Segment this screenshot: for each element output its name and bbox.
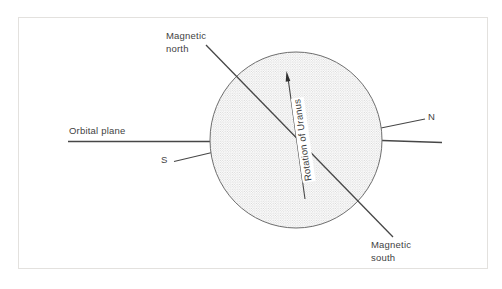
uranus-diagram <box>0 0 502 289</box>
north-pole-line <box>381 119 425 128</box>
magnetic-north-label: Magnetic north <box>166 30 216 55</box>
south-pole-line <box>174 153 212 162</box>
orbital-plane-line-right <box>382 141 442 143</box>
orbital-plane-label: Orbital plane <box>69 125 125 138</box>
figure-canvas: Magnetic north Orbital plane S N Rotatio… <box>0 0 502 289</box>
north-pole-label: N <box>428 111 435 124</box>
south-pole-label: S <box>161 154 168 167</box>
magnetic-south-label: Magnetic south <box>371 239 421 264</box>
